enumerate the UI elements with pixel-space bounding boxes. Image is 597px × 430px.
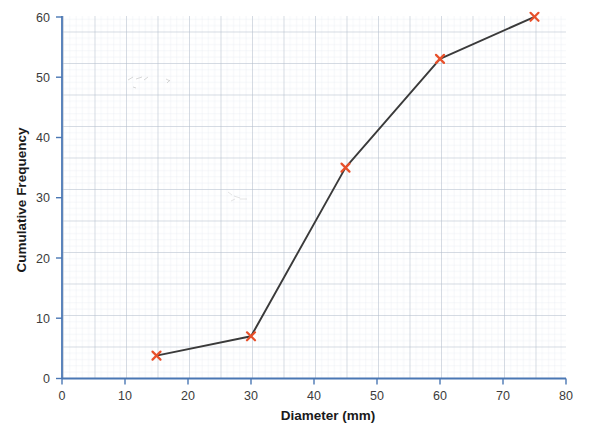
- x-tick-label-80: 80: [559, 389, 573, 403]
- x-tick-label-10: 10: [118, 389, 132, 403]
- y-tick-label-40: 40: [36, 131, 50, 145]
- graph-paper-grid: [62, 16, 566, 378]
- y-tick-label-30: 30: [36, 191, 50, 205]
- y-tick-label-10: 10: [36, 312, 50, 326]
- x-tick-label-50: 50: [370, 389, 384, 403]
- x-tick-label-40: 40: [307, 389, 321, 403]
- chart-canvas: 0 10 20 30 40 50 60 0 10 20 30 40 50 60 …: [0, 0, 597, 430]
- cumulative-frequency-chart: 0 10 20 30 40 50 60 0 10 20 30 40 50 60 …: [0, 0, 597, 430]
- x-tick-label-60: 60: [433, 389, 447, 403]
- y-tick-label-60: 60: [36, 11, 50, 25]
- x-tick-label-20: 20: [181, 389, 195, 403]
- x-tick-label-0: 0: [59, 389, 66, 403]
- x-tick-label-70: 70: [496, 389, 510, 403]
- x-tick-label-30: 30: [244, 389, 258, 403]
- y-tick-label-0: 0: [43, 372, 50, 386]
- y-tick-label-20: 20: [36, 252, 50, 266]
- y-axis-title: Cumulative Frequency: [14, 127, 29, 272]
- x-axis-title: Diameter (mm): [281, 408, 376, 423]
- y-tick-label-50: 50: [36, 71, 50, 85]
